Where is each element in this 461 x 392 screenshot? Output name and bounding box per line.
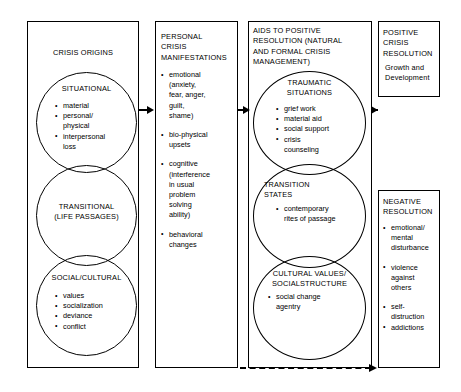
aids-to-positive-header: AIDS TO POSITIVE RESOLUTION (NATURAL AND… (253, 26, 371, 68)
list-item: self- distruction (383, 302, 439, 322)
arrowhead-icon (243, 106, 250, 114)
list-item: material (55, 101, 145, 111)
social-cultural-label: SOCIAL/CULTURAL (36, 273, 137, 283)
cultural-values-label: CULTURAL VALUES/ SOCIALSTRUCTURE (253, 269, 366, 289)
arrowhead-icon (147, 106, 154, 114)
list-item: interpersonal loss (55, 132, 145, 152)
transitional-label: TRANSITIONAL (LIFE PASSAGES) (36, 202, 137, 222)
list-item: violence against others (383, 263, 439, 294)
list-item: grief work (276, 104, 372, 114)
list-item: conflict (55, 322, 137, 332)
list-item: emotional (anxiety, fear, anger, guilt, … (161, 70, 237, 121)
transition-states-items: contemporary rites of passage (276, 204, 372, 224)
situational-items: material personal/ physical interpersona… (55, 101, 145, 152)
situational-label: SITUATIONAL (36, 84, 137, 94)
list-item: cognitive (interference in usual problem… (161, 159, 237, 220)
dashed-arrow-to-negative-resolution (240, 367, 371, 369)
crisis-origins-header: CRISIS ORIGINS (27, 48, 139, 58)
positive-resolution-body: Growth and Development (385, 63, 439, 83)
personal-crisis-items: emotional (anxiety, fear, anger, guilt, … (161, 70, 237, 250)
cultural-values-items: social change agentry (268, 292, 368, 312)
list-item: material aid (276, 114, 372, 124)
list-item: social support (276, 124, 372, 134)
list-item: personal/ physical (55, 111, 145, 131)
list-item: bio-physical upsets (161, 130, 237, 150)
negative-resolution-header: NEGATIVE RESOLUTION (383, 197, 439, 218)
list-item: crisis counseling (276, 135, 372, 155)
list-item: values (55, 291, 137, 301)
traumatic-situations-label: TRAUMATIC SITUATIONS (253, 78, 366, 98)
traumatic-situations-items: grief work material aid social support c… (276, 104, 372, 155)
list-item: addictions (383, 323, 439, 333)
list-item: contemporary rites of passage (276, 204, 372, 224)
list-item: emotional/ mental disturbance (383, 223, 439, 254)
list-item: deviance (55, 311, 137, 321)
positive-resolution-header: POSITIVE CRISIS RESOLUTION (383, 28, 439, 59)
list-item: socialization (55, 301, 137, 311)
crisis-model-diagram: CRISIS ORIGINS SITUATIONAL material pers… (0, 0, 461, 392)
negative-resolution-items: emotional/ mental disturbance violence a… (383, 223, 439, 333)
arrowhead-icon (371, 106, 378, 114)
social-cultural-items: values socialization deviance conflict (55, 291, 137, 332)
transition-states-label: TRANSITION STATES (264, 180, 364, 200)
personal-crisis-header: PERSONAL CRISIS MANIFESTATIONS (161, 32, 237, 63)
list-item: behavioral changes (161, 230, 237, 250)
list-item: social change agentry (268, 292, 368, 312)
arrowhead-icon (369, 364, 377, 372)
